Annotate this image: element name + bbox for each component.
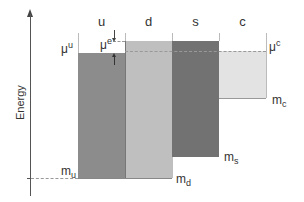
band-u	[78, 53, 125, 178]
band-c	[219, 51, 266, 98]
column-label-u: u	[78, 14, 125, 29]
arrowhead-down-icon	[112, 38, 116, 42]
label-mu-e: μe	[100, 36, 112, 52]
label-m-s: ms	[224, 150, 239, 166]
label-m-d: md	[176, 172, 191, 188]
column-divider	[172, 33, 173, 41]
label-mu-c: μc	[269, 38, 280, 54]
axis-label: Energy	[14, 85, 26, 120]
column-divider	[266, 33, 267, 98]
arrowhead-up-icon	[112, 53, 116, 57]
column-label-s: s	[172, 14, 219, 29]
label-m-u: mu	[61, 164, 76, 180]
band-bottom-line	[78, 178, 172, 179]
band-bottom-line	[219, 98, 266, 99]
column-divider	[78, 33, 79, 53]
label-mu-u: μu	[61, 40, 73, 56]
mu-c-dashed-line	[125, 51, 266, 52]
band-s	[172, 41, 219, 157]
band-d	[125, 41, 173, 178]
energy-axis	[30, 14, 31, 196]
column-label-c: c	[219, 14, 266, 29]
column-divider	[219, 33, 220, 41]
label-m-c: mc	[272, 93, 287, 109]
column-label-d: d	[125, 14, 172, 29]
column-divider	[125, 33, 126, 41]
